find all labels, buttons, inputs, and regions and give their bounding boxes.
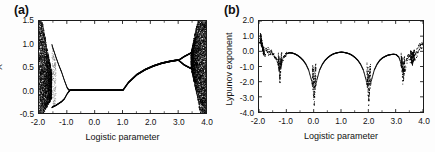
panel-b-label: (b) xyxy=(224,3,239,17)
panel-a-plot-area xyxy=(38,20,207,114)
panel-a-y-tick-labels: 1.51.00.50.0-0.5 xyxy=(8,20,34,114)
y-tick-label: -3.0 xyxy=(240,93,254,101)
y-tick-label: 0.0 xyxy=(22,86,34,94)
y-tick-label: 0.0 xyxy=(242,47,254,55)
panel-b: (b) 2.01.00.0-1.0-2.0-3.0-4.0 -2.0-1.00.… xyxy=(216,0,435,152)
x-tick-label: 4.0 xyxy=(418,117,430,125)
x-tick-label: -2.0 xyxy=(251,117,265,125)
lyapunov-exponent-plot xyxy=(259,21,423,112)
panel-a-x-tick-labels: -2.0-1.00.01.02.03.04.0 xyxy=(38,118,207,130)
x-tick-label: 2.0 xyxy=(145,118,157,126)
panel-b-plot-area xyxy=(258,20,424,113)
x-tick-label: -1.0 xyxy=(59,118,73,126)
figure-container: (a) 1.51.00.50.0-0.5 -2.0-1.00.01.02.03.… xyxy=(0,0,435,152)
x-tick-label: 1.0 xyxy=(117,118,129,126)
panel-a-y-axis-title: X xyxy=(0,64,4,70)
panel-b-x-tick-labels: -2.0-1.00.01.02.03.04.0 xyxy=(258,117,424,129)
x-tick-label: 3.0 xyxy=(173,118,185,126)
x-tick-label: 1.0 xyxy=(335,117,347,125)
x-tick-label: 0.0 xyxy=(308,117,320,125)
x-tick-label: 0.0 xyxy=(89,118,101,126)
lyapunov-points xyxy=(259,33,423,106)
y-tick-label: 2.0 xyxy=(242,16,254,24)
y-tick-label: -2.0 xyxy=(240,78,254,86)
y-tick-label: 0.5 xyxy=(22,63,34,71)
x-tick-label: 4.0 xyxy=(201,118,213,126)
y-tick-label: 1.0 xyxy=(22,39,34,47)
panel-a-x-axis-title: Logistic parameter xyxy=(38,132,207,142)
x-tick-label: 2.0 xyxy=(363,117,375,125)
y-tick-label: -1.0 xyxy=(240,62,254,70)
panel-a: (a) 1.51.00.50.0-0.5 -2.0-1.00.01.02.03.… xyxy=(0,0,216,152)
bifurcation-points xyxy=(39,21,206,113)
x-tick-label: -2.0 xyxy=(31,118,45,126)
panel-b-y-axis-title: Lypunov exponent xyxy=(224,32,234,105)
y-tick-label: 1.0 xyxy=(242,31,254,39)
y-tick-label: 1.5 xyxy=(22,16,34,24)
panel-b-x-axis-title: Logistic parameter xyxy=(258,131,424,141)
x-tick-label: 3.0 xyxy=(391,117,403,125)
x-tick-label: -1.0 xyxy=(279,117,293,125)
bifurcation-diagram-plot xyxy=(39,21,206,113)
